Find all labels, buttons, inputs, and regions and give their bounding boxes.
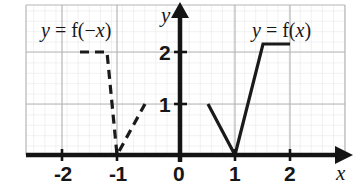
x-tick-label-neg1: -1	[109, 163, 127, 184]
curve-label-left-var: x	[96, 19, 105, 41]
x-tick-label-pos2: 2	[284, 163, 295, 184]
x-tick-label-zero: 0	[173, 163, 184, 184]
curve-label-left-close: )	[105, 19, 112, 41]
x-tick-label-neg2: -2	[54, 163, 72, 184]
y-tick-label-1: 1	[159, 94, 170, 115]
x-axis-label: x	[336, 163, 345, 184]
x-tick-label-pos1: 1	[229, 163, 240, 184]
curve-label-f-of-negative-x: y = f(−x)	[41, 20, 111, 40]
curve-label-right-equals: =	[266, 19, 277, 41]
curve-label-left-y: y	[41, 19, 50, 41]
function-graph-figure: -2 -1 0 1 2 2 1 y x y = f(−x) y = f(x)	[0, 0, 360, 195]
y-axis-label: y	[161, 5, 170, 26]
curve-label-right-close: )	[304, 19, 311, 41]
curve-label-left-equals: =	[55, 19, 66, 41]
y-tick-label-2: 2	[159, 42, 170, 63]
curve-label-left-minus: −	[85, 19, 96, 41]
curve-label-left-fn: f(	[71, 19, 84, 41]
curve-label-f-of-x: y = f(x)	[252, 20, 311, 40]
curve-label-right-y: y	[252, 19, 261, 41]
curve-label-right-fn: f(	[282, 19, 295, 41]
